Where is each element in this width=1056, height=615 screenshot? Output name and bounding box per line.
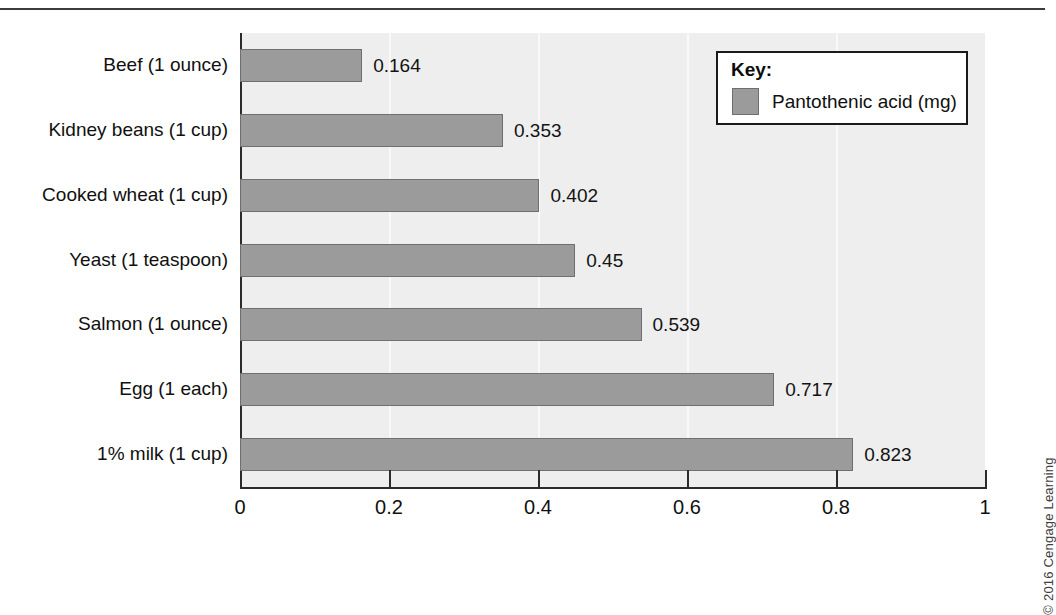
x-tick-label-3: 0.6 [673, 496, 701, 519]
bar-value-label: 0.164 [362, 49, 421, 82]
bar-value-label: 0.539 [642, 308, 701, 341]
bar-value-label: 0.823 [853, 438, 912, 471]
bar [240, 49, 362, 82]
bar-value-label: 0.402 [539, 179, 598, 212]
legend-swatch-pantothenic-acid [732, 88, 759, 115]
legend-key-box: Key: Pantothenic acid (mg) [716, 51, 968, 125]
category-label: Beef (1 ounce) [0, 33, 228, 98]
x-tick-label-1: 0.2 [375, 496, 403, 519]
bar-value-label: 0.45 [575, 244, 623, 277]
bar-row: 0.717 [240, 357, 985, 422]
copyright-notice: © 2016 Cengage Learning [1041, 457, 1056, 614]
category-label: Cooked wheat (1 cup) [0, 163, 228, 228]
category-label: Egg (1 each) [0, 357, 228, 422]
category-label: Yeast (1 teaspoon) [0, 228, 228, 293]
x-tick-label-4: 0.8 [822, 496, 850, 519]
bar [240, 179, 539, 212]
bar-row: 0.823 [240, 422, 985, 487]
x-tick-label-5: 1 [979, 496, 990, 519]
x-tick-label-2: 0.4 [524, 496, 552, 519]
bar [240, 114, 503, 147]
category-label: Kidney beans (1 cup) [0, 98, 228, 163]
bar-row: 0.539 [240, 292, 985, 357]
x-axis-line [240, 487, 987, 489]
category-label: Salmon (1 ounce) [0, 292, 228, 357]
x-tick-mark-5 [985, 470, 987, 487]
category-label: 1% milk (1 cup) [0, 422, 228, 487]
bar-row: 0.45 [240, 228, 985, 293]
bar-value-label: 0.717 [774, 373, 833, 406]
category-axis-labels: Beef (1 ounce)Kidney beans (1 cup)Cooked… [0, 33, 228, 487]
top-divider-rule [0, 8, 1045, 10]
bar [240, 244, 575, 277]
x-tick-label-0: 0 [234, 496, 245, 519]
legend-label-pantothenic-acid: Pantothenic acid (mg) [772, 88, 957, 115]
bar [240, 438, 853, 471]
legend-title: Key: [731, 59, 772, 81]
x-tick-mark-4 [836, 470, 838, 487]
x-tick-mark-3 [687, 470, 689, 487]
x-tick-mark-2 [538, 470, 540, 487]
bar [240, 373, 774, 406]
x-tick-mark-1 [389, 470, 391, 487]
bar-value-label: 0.353 [503, 114, 562, 147]
bar-row: 0.402 [240, 163, 985, 228]
bar [240, 308, 642, 341]
